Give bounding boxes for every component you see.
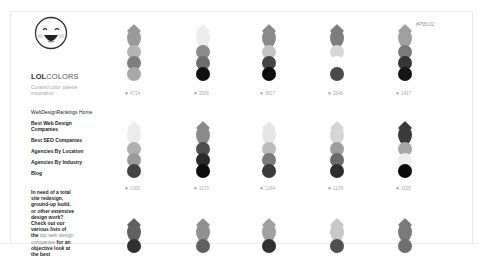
like-count[interactable]: ♥2646 (328, 90, 343, 96)
like-count-value: 1300 (130, 186, 140, 191)
heart-icon[interactable]: ♥ (194, 185, 197, 191)
heart-icon[interactable]: ♥ (194, 90, 197, 96)
palette-card[interactable] (259, 224, 279, 253)
color-swatch[interactable] (262, 239, 276, 253)
tagline: Curated color palette inspiration (31, 84, 79, 96)
color-swatch[interactable] (196, 67, 210, 81)
palette-card[interactable] (327, 224, 347, 253)
palette-card[interactable] (327, 127, 347, 178)
brand-light: COLORS (46, 72, 78, 81)
like-count[interactable]: ♥1278 (328, 185, 343, 191)
nav-home[interactable]: WebDesignRankings Home (31, 109, 93, 115)
palette-card[interactable] (193, 30, 213, 81)
heart-icon[interactable]: ♥ (125, 185, 128, 191)
color-swatch[interactable] (398, 164, 412, 178)
palette-card[interactable] (395, 30, 415, 81)
like-count-value: 1278 (333, 186, 343, 191)
heart-icon[interactable]: ♥ (396, 90, 399, 96)
like-count[interactable]: ♥1417 (396, 90, 411, 96)
like-count[interactable]: ♥1635 (396, 185, 411, 191)
color-swatch[interactable] (330, 67, 344, 81)
color-swatch[interactable] (127, 164, 141, 178)
hover-hex-code: #F5B102 (416, 22, 434, 27)
like-count[interactable]: ♥3617 (260, 90, 275, 96)
like-count-value: 1635 (401, 186, 411, 191)
palette-card[interactable] (259, 30, 279, 81)
like-count[interactable]: ♥4714 (125, 90, 140, 96)
palette-card[interactable] (327, 30, 347, 81)
palette-card[interactable] (124, 127, 144, 178)
brand-bold: LOL (31, 72, 46, 81)
color-swatch[interactable] (330, 239, 344, 253)
color-swatch[interactable] (196, 164, 210, 178)
palette-card[interactable] (193, 224, 213, 253)
like-count-value: 3306 (199, 91, 209, 96)
like-count-value: 1264 (265, 186, 275, 191)
promo-text-1: In need of a total site redesign, ground… (31, 189, 74, 238)
heart-icon[interactable]: ♥ (328, 90, 331, 96)
like-count-value: 3617 (265, 91, 275, 96)
color-swatch[interactable] (262, 164, 276, 178)
nav-best-seo[interactable]: Best SEO Companies (31, 137, 93, 143)
like-count[interactable]: ♥1300 (125, 185, 140, 191)
nav-blog[interactable]: Blog (31, 170, 93, 176)
palette-card[interactable] (395, 224, 415, 253)
like-count-value: 4714 (130, 91, 140, 96)
brand-name[interactable]: LOLCOLORS (31, 72, 79, 81)
like-count[interactable]: ♥1264 (260, 185, 275, 191)
palette-card[interactable] (193, 127, 213, 178)
smiley-logo-icon[interactable] (34, 16, 68, 50)
palette-card[interactable] (395, 127, 415, 178)
heart-icon[interactable]: ♥ (328, 185, 331, 191)
color-swatch[interactable] (330, 164, 344, 178)
color-swatch[interactable] (127, 67, 141, 81)
nav-agencies-industry[interactable]: Agencies By Industry (31, 159, 93, 165)
heart-icon[interactable]: ♥ (396, 185, 399, 191)
like-count[interactable]: ♥1070 (194, 185, 209, 191)
color-swatch[interactable] (196, 239, 210, 253)
heart-icon[interactable]: ♥ (260, 185, 263, 191)
sidebar-nav: WebDesignRankings Home Best Web Design C… (31, 109, 93, 181)
palette-card[interactable] (124, 224, 144, 253)
color-swatch[interactable] (262, 67, 276, 81)
like-count-value: 1070 (199, 186, 209, 191)
heart-icon[interactable]: ♥ (260, 90, 263, 96)
promo-text: In need of a total site redesign, ground… (31, 189, 75, 257)
like-count[interactable]: ♥3306 (194, 90, 209, 96)
color-swatch[interactable] (398, 239, 412, 253)
heart-icon[interactable]: ♥ (125, 90, 128, 96)
palette-card[interactable] (124, 30, 144, 81)
color-swatch[interactable] (127, 239, 141, 253)
nav-agencies-location[interactable]: Agencies By Location (31, 148, 93, 154)
like-count-value: 1417 (401, 91, 411, 96)
nav-best-web-design[interactable]: Best Web Design Companies (31, 120, 93, 132)
like-count-value: 2646 (333, 91, 343, 96)
palette-card[interactable] (259, 127, 279, 178)
color-swatch[interactable] (398, 67, 412, 81)
